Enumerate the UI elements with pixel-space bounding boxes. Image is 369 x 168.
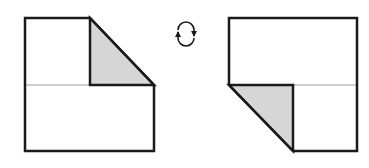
turn-over-icon: [175, 22, 197, 46]
left-figure: [25, 18, 154, 151]
right-figure: [229, 18, 357, 151]
fold-diagram: [0, 0, 369, 168]
